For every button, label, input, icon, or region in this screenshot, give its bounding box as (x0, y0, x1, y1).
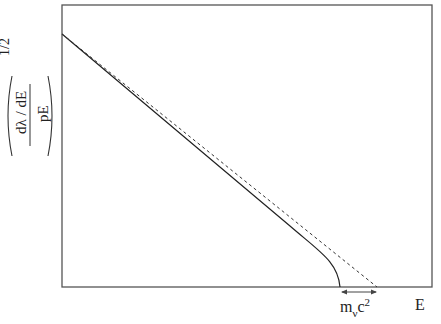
mass-double-arrow (341, 290, 377, 295)
mass-label: mνc2 (340, 296, 370, 319)
mass-sq: 2 (365, 296, 371, 308)
y-label-numerator: dλ / dE (13, 91, 30, 134)
solid-curve (62, 34, 340, 287)
x-axis-label: E (415, 296, 425, 314)
plot-frame (62, 5, 432, 287)
mass-c: c (357, 298, 364, 315)
mass-m: m (340, 298, 352, 315)
y-label-text: dλ / dE pE 1/2 (11, 10, 61, 160)
y-label-denominator: pE (35, 105, 52, 122)
y-label-exponent: 1/2 (0, 38, 13, 56)
dashed-line (62, 34, 377, 287)
